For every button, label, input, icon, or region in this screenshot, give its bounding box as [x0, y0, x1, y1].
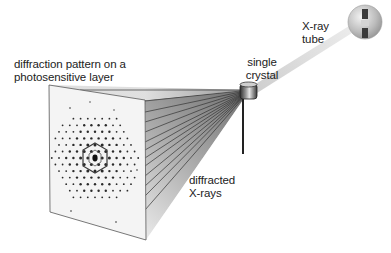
diffraction-spot — [62, 138, 64, 140]
diffraction-spot — [115, 157, 117, 159]
diffraction-spot — [101, 131, 103, 133]
diffraction-spot — [127, 138, 129, 140]
diffraction-spot — [94, 183, 96, 185]
diffraction-spot — [127, 164, 129, 166]
diffraction-spot — [69, 124, 71, 126]
diffraction-spot — [112, 137, 114, 139]
diffraction-spot — [58, 157, 60, 159]
diffraction-spot — [87, 131, 89, 133]
diffraction-spot — [76, 190, 78, 192]
diffraction-spot — [55, 164, 57, 166]
diffraction-spot — [73, 196, 75, 198]
diffraction-spot — [123, 144, 125, 146]
diffraction-spot — [83, 190, 85, 192]
tube-label-line-2: tube — [302, 33, 324, 45]
diffraction-spot — [69, 177, 71, 179]
diffraction-spot — [112, 150, 114, 152]
diffraction-spot — [69, 163, 71, 165]
diffraction-spot — [87, 183, 89, 185]
rays-label-line-2: X-rays — [189, 187, 222, 199]
diffraction-spot — [116, 118, 118, 120]
diffraction-spot — [51, 157, 53, 159]
diffraction-spot — [127, 190, 129, 192]
diffraction-spot — [123, 131, 125, 133]
diffraction-spot — [119, 163, 121, 165]
diffraction-spot — [119, 190, 121, 192]
diffraction-spot — [127, 177, 129, 179]
diffraction-spot — [108, 157, 111, 160]
diffraction-spot — [55, 151, 57, 153]
crystal-holder — [242, 96, 244, 154]
diffraction-spot — [116, 131, 118, 133]
diffraction-spot — [97, 190, 99, 192]
diffraction-spot — [94, 118, 96, 120]
diffraction-spot — [130, 170, 132, 172]
diffraction-spot — [115, 144, 117, 146]
diffraction-spot — [112, 176, 114, 178]
diffraction-spot — [108, 170, 110, 172]
rays-label: diffracted X-rays — [189, 174, 235, 199]
diffraction-spot — [69, 150, 71, 152]
diffraction-spot — [112, 124, 114, 126]
diffraction-spot — [123, 170, 125, 172]
crystal-label-line-2: crystal — [246, 69, 279, 81]
diffraction-spot — [72, 170, 74, 172]
diffraction-spot — [94, 131, 96, 133]
diffraction-spot — [79, 131, 81, 133]
diffraction-spot — [130, 157, 132, 159]
diffraction-spot — [69, 138, 71, 140]
diffraction-spot — [58, 170, 60, 172]
diffraction-spot — [72, 144, 74, 146]
diffraction-spot — [112, 190, 114, 192]
diffraction-spot — [76, 176, 78, 178]
diffraction-spot — [87, 118, 89, 120]
diffraction-spot — [105, 190, 107, 192]
diffraction-spot — [101, 183, 103, 185]
diffraction-spot — [79, 157, 82, 160]
diffraction-spot — [79, 170, 81, 172]
diffraction-spot — [90, 176, 92, 178]
xray-tube — [348, 5, 382, 39]
diffraction-spot — [65, 170, 67, 172]
diffraction-spot — [109, 196, 111, 198]
diffraction-spot — [76, 163, 78, 165]
tube-label: X-ray tube — [302, 20, 329, 45]
diffraction-spot — [101, 118, 103, 120]
diffraction-spot — [76, 124, 78, 126]
single-crystal — [240, 82, 257, 99]
diffraction-spot — [79, 183, 81, 185]
diffraction-spot — [137, 157, 139, 159]
diffraction-spot — [134, 151, 136, 153]
detector-screen — [49, 85, 146, 240]
diffraction-spot — [130, 183, 132, 185]
diffraction-spot — [127, 151, 129, 153]
diffraction-spot — [76, 150, 78, 152]
diffraction-spot — [80, 118, 82, 120]
diffraction-spot — [97, 137, 99, 139]
diffraction-spot — [73, 131, 75, 133]
diffraction-spot — [90, 190, 92, 192]
diffraction-spot — [105, 176, 107, 178]
diffraction-spot — [101, 196, 103, 198]
crystal-label-line-1: single — [247, 56, 276, 68]
diffraction-spot — [83, 124, 85, 126]
diffraction-spot — [80, 196, 82, 198]
diffraction-spot — [116, 196, 118, 198]
diffraction-spot — [119, 150, 121, 152]
diffraction-spot — [62, 164, 64, 166]
diffraction-spot — [116, 183, 118, 185]
diffraction-diagram: diffraction pattern on a photosensitive … — [0, 0, 391, 253]
diffraction-spot — [115, 170, 117, 172]
tube-label-line-1: X-ray — [302, 20, 329, 32]
diffraction-spot — [58, 131, 60, 133]
screen-label-line-1: diffraction pattern on a — [14, 58, 126, 70]
diffraction-spot — [123, 183, 125, 185]
diffraction-spot — [134, 177, 136, 179]
diffraction-spot — [69, 190, 71, 192]
diffraction-spot — [72, 157, 74, 159]
diffraction-spot — [119, 124, 121, 126]
diffraction-spot — [65, 157, 67, 159]
diffraction-spot — [123, 157, 125, 159]
diffraction-spot — [90, 124, 92, 126]
diffraction-spot — [108, 131, 110, 133]
